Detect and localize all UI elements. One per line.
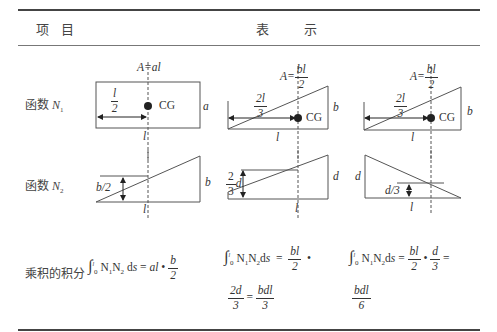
height-label-n2-3: d xyxy=(355,170,361,182)
formula-2: ∫l0 N1N2ds = bl2 • xyxy=(224,246,311,272)
two-thirds-length-2: 2l 3 xyxy=(254,93,267,119)
half-length-fraction: l 2 xyxy=(111,88,118,114)
formula-2-line2: 2d3 = bdl3 xyxy=(228,285,274,311)
length-label-3: l xyxy=(411,131,414,143)
area-label-1: A=al xyxy=(137,61,161,73)
cg-label-1: CG xyxy=(159,99,175,111)
area-label-2: A=bl2 xyxy=(280,64,308,90)
two-thirds-length-3: 2l 3 xyxy=(394,93,407,119)
formula-3-line2: bdl6 xyxy=(352,285,371,311)
height-label-n2-2: d xyxy=(333,170,339,182)
length-label-1: l xyxy=(143,130,146,142)
height-label-b-3: b xyxy=(467,105,473,117)
height-label-b-2: b xyxy=(333,101,339,113)
area-label-3: A=bl2 xyxy=(410,64,438,90)
height-label-n2-1: b xyxy=(205,176,211,188)
height-label-a: a xyxy=(203,100,209,112)
diagram-shapes xyxy=(0,0,497,332)
cg-dot-1 xyxy=(144,102,152,110)
cg-label-3: CG xyxy=(439,111,455,123)
half-b-label: b/2 xyxy=(96,181,111,193)
triangle-shape-3 xyxy=(364,87,461,130)
cg-label-2: CG xyxy=(306,111,322,123)
third-d-label: d/3 xyxy=(385,184,400,196)
length-label-2: l xyxy=(276,131,279,143)
two-thirds-d-label: 23d xyxy=(226,171,242,197)
cg-dot-2 xyxy=(294,114,302,122)
cg-dot-3 xyxy=(427,114,435,122)
length-label-n2-1: l xyxy=(143,203,146,215)
length-label-n2-2: l xyxy=(295,202,298,214)
n2-triangle-3 xyxy=(365,155,461,198)
formula-3: ∫l0 N1N2ds = bl2 • d3 = xyxy=(349,246,449,272)
formula-1: ∫l0 N1N2 ds = al • b2 xyxy=(88,255,178,281)
length-label-n2-3: l xyxy=(410,201,413,213)
